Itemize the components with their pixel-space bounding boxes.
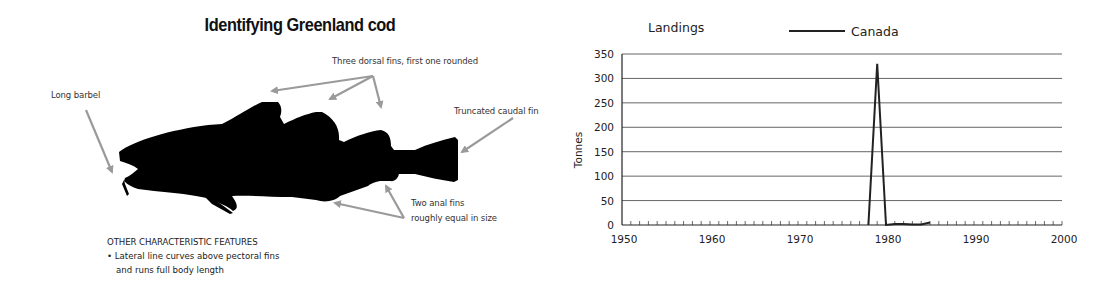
anal-fins-label-line1: Two anal fins: [411, 198, 464, 208]
y-tick-label: 350: [594, 48, 614, 60]
other-features: OTHER CHARACTERISTIC FEATURES • Lateral …: [107, 235, 279, 277]
legend-label-canada: Canada: [851, 24, 899, 39]
chart-title: Landings: [648, 20, 704, 35]
caudal-fin-label: Truncated caudal fin: [454, 106, 538, 116]
y-tick-label: 0: [607, 219, 614, 231]
y-tick-label: 300: [594, 72, 614, 84]
x-tick-label: 1970: [787, 233, 814, 245]
dorsal-arrow-3: [373, 76, 381, 107]
features-heading: OTHER CHARACTERISTIC FEATURES: [107, 235, 279, 249]
barbel-arrow: [86, 110, 112, 172]
x-tick-label: 1950: [611, 233, 638, 245]
landings-chart: Landings Canada Tonnes 05010015020025030…: [560, 0, 1113, 287]
y-axis-label: Tonnes: [572, 132, 584, 169]
anal-fins-label-line2: roughly equal in size: [411, 213, 497, 223]
gridlines: [622, 54, 1062, 201]
barbel-label: Long barbel: [51, 90, 100, 100]
dorsal-fins-label: Three dorsal fins, first one rounded: [332, 56, 478, 66]
feature-bullet-line2: and runs full body length: [107, 263, 279, 277]
x-tick-label: 2000: [1051, 233, 1078, 245]
y-tick-label: 50: [601, 195, 614, 207]
y-tick-label: 150: [594, 146, 614, 158]
caudal-arrow: [462, 118, 513, 152]
fish-diagram: [0, 0, 560, 287]
feature-bullet-line1: • Lateral line curves above pectoral fin…: [107, 249, 279, 263]
x-tick-label: 1990: [963, 233, 990, 245]
anal-arrow-2: [386, 186, 404, 218]
greenland-cod-silhouette: [119, 102, 458, 211]
y-tick-label: 100: [594, 170, 614, 182]
y-tick-label: 200: [594, 121, 614, 133]
y-tick-label: 250: [594, 97, 614, 109]
landings-chart-panel: Landings Canada Tonnes 05010015020025030…: [560, 0, 1113, 287]
x-tick-label: 1980: [875, 233, 902, 245]
y-axis-ticks: 050100150200250300350: [594, 48, 614, 231]
x-tick-label: 1960: [699, 233, 726, 245]
anal-arrow-1: [335, 203, 404, 218]
fish-identification-panel: Identifying Greenland cod Long barbel Th…: [0, 0, 560, 287]
